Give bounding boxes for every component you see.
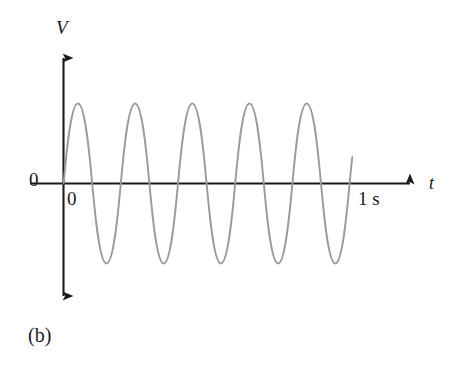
y-axis-label: V bbox=[56, 18, 68, 37]
panel-label: (b) bbox=[28, 325, 51, 345]
waveform-plot bbox=[0, 0, 456, 370]
x-axis-end-tick-label: 1 s bbox=[358, 189, 380, 208]
x-axis-label: t bbox=[429, 174, 434, 192]
x-axis-origin-label: 0 bbox=[67, 189, 77, 208]
figure-panel-b: V t 0 0 1 s (b) bbox=[0, 0, 456, 370]
y-axis-origin-label: 0 bbox=[29, 170, 39, 189]
